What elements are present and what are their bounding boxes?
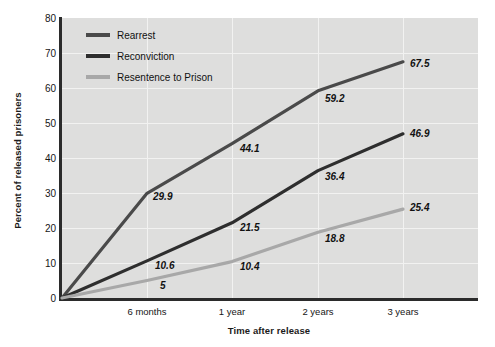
line-chart: Percent of released prisoners 0 10 20 30… bbox=[0, 0, 495, 347]
data-label-reconviction-3-years: 46.9 bbox=[410, 128, 429, 139]
data-label-rearrest-3-years: 67.5 bbox=[410, 58, 429, 69]
x-tick-3-years: 3 years bbox=[387, 306, 418, 317]
legend-item-reconviction: Reconviction bbox=[86, 47, 286, 65]
legend-label-resentence-to-prison: Resentence to Prison bbox=[117, 72, 213, 83]
data-label-reconviction-6-months: 10.6 bbox=[155, 260, 174, 271]
data-label-rearrest-6-months: 29.9 bbox=[153, 191, 172, 202]
legend: Rearrest Reconviction Resentence to Pris… bbox=[86, 26, 286, 89]
data-label-resentence-6-months: 5 bbox=[160, 280, 166, 291]
x-tick-2-years: 2 years bbox=[302, 306, 333, 317]
data-label-reconviction-1-year: 21.5 bbox=[240, 222, 259, 233]
legend-label-reconviction: Reconviction bbox=[117, 51, 174, 62]
x-tick-6-months: 6 months bbox=[127, 306, 166, 317]
data-label-resentence-2-years: 18.8 bbox=[325, 233, 344, 244]
data-label-resentence-1-year: 10.4 bbox=[240, 261, 259, 272]
legend-swatch-icon-rearrest bbox=[86, 33, 110, 37]
legend-item-rearrest: Rearrest bbox=[86, 26, 286, 44]
data-label-rearrest-1-year: 44.1 bbox=[240, 143, 259, 154]
data-label-reconviction-2-years: 36.4 bbox=[325, 171, 344, 182]
data-label-resentence-3-years: 25.4 bbox=[410, 202, 429, 213]
legend-label-rearrest: Rearrest bbox=[117, 30, 155, 41]
legend-item-resentence-to-prison: Resentence to Prison bbox=[86, 68, 286, 86]
legend-swatch-icon-reconviction bbox=[86, 54, 110, 58]
legend-swatch-icon-resentence-to-prison bbox=[86, 75, 110, 79]
x-tick-1-year: 1 year bbox=[219, 306, 245, 317]
data-label-rearrest-2-years: 59.2 bbox=[325, 93, 344, 104]
series-line-reconviction bbox=[62, 134, 403, 298]
x-axis-title: Time after release bbox=[60, 325, 478, 336]
